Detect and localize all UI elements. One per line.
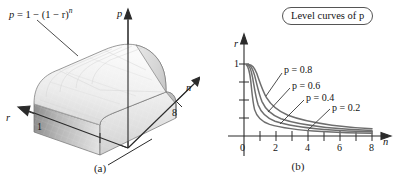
tick-label-n-6: 6 (337, 142, 342, 153)
equation-equals: = (17, 9, 23, 20)
axis-label-p: p (117, 8, 122, 19)
axis-label-n: n (186, 82, 191, 93)
caption-b: (b) (198, 160, 398, 172)
tick-label-n-4: 4 (305, 142, 310, 153)
equation-lhs: p (9, 9, 14, 20)
axis-label-n-b: n (383, 136, 388, 147)
curve-label-p02: p = 0.2 (332, 102, 360, 113)
surface-equation-label: p = 1 − (1 − r)n (9, 6, 73, 20)
equation-rhs: 1 − (1 − r) (25, 9, 68, 20)
figure-container: p = 1 − (1 − r)n p r n 1 8 (a) (0, 0, 398, 183)
tick-label-n-2: 2 (273, 142, 278, 153)
curve-label-p04: p = 0.4 (306, 92, 334, 103)
tick-label-r-1-b: 1 (234, 58, 239, 69)
panel-b-level-curves: Level curves of p r n 1 0 2 4 6 8 p = 0.… (198, 0, 398, 183)
axis-label-r-b: r (234, 38, 238, 49)
level-curves-box-text: Level curves of p (291, 10, 364, 21)
caption-a: (a) (0, 162, 200, 174)
curve-label-p08: p = 0.8 (284, 64, 312, 75)
formula-leader-line (37, 20, 78, 56)
equation-exponent: n (69, 6, 73, 15)
curve-label-p06: p = 0.6 (292, 80, 320, 91)
panel-a-surface-plot: p = 1 − (1 − r)n p r n 1 8 (a) (0, 0, 200, 183)
level-curves-svg (198, 0, 398, 183)
tick-label-r-1: 1 (37, 121, 42, 132)
surface-plot-svg (0, 0, 200, 183)
tick-label-n-8: 8 (369, 142, 374, 153)
tick-label-n-8: 8 (172, 107, 177, 118)
axis-label-r: r (6, 112, 10, 123)
tick-label-n-0: 0 (240, 142, 245, 153)
level-curves-box-label: Level curves of p (282, 7, 373, 25)
